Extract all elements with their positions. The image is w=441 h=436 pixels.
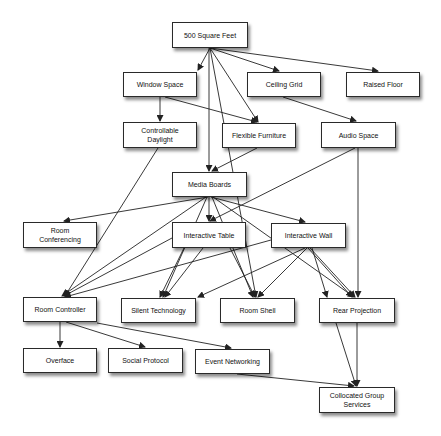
edge-sqft-to-raised <box>210 48 378 71</box>
node-silent: Silent Technology <box>121 298 196 323</box>
edge-table-to-silent <box>165 248 203 297</box>
edge-controller-to-social <box>66 322 145 347</box>
node-label: Flexible Furniture <box>232 131 286 140</box>
node-collocated: Collocated GroupServices <box>319 387 395 413</box>
node-label: Ceiling Grid <box>266 80 303 89</box>
node-label: Audio Space <box>339 131 379 140</box>
node-shell: Room Shell <box>220 298 295 323</box>
node-label: Silent Technology <box>131 306 186 315</box>
edge-sqft-to-ceiling <box>210 48 279 71</box>
node-media: Media Boards <box>172 172 247 197</box>
node-label: Social Protocol <box>122 356 169 365</box>
node-audio: Audio Space <box>321 122 396 148</box>
node-label: Interactive Wall <box>285 231 333 240</box>
edge-media-to-conferencing <box>64 197 208 221</box>
edge-wall-to-shell <box>258 248 307 297</box>
node-label: Raised Floor <box>363 80 403 89</box>
node-label: RoomConferencing <box>39 226 81 244</box>
node-rear: Rear Projection <box>319 298 395 323</box>
edge-furniture-to-media <box>212 148 257 171</box>
node-conferencing: RoomConferencing <box>23 222 97 248</box>
edge-media-to-wall <box>211 197 305 222</box>
node-social: Social Protocol <box>108 348 183 373</box>
edge-rear-to-collocated <box>336 323 356 386</box>
node-ceiling: Ceiling Grid <box>247 72 321 97</box>
node-sqft: 500 Square Feet <box>172 22 248 48</box>
edge-window-to-furniture <box>165 97 257 122</box>
edge-wall-to-rear <box>310 248 355 297</box>
node-controller: Room Controller <box>23 297 97 322</box>
edge-table-to-silent <box>160 248 184 297</box>
node-wall: Interactive Wall <box>271 223 346 248</box>
node-label: ControllableDaylight <box>141 126 178 144</box>
edge-controller-to-event <box>97 323 231 348</box>
node-table: Interactive Table <box>172 222 246 248</box>
dependency-diagram: 500 Square FeetWindow SpaceCeiling GridR… <box>0 0 441 436</box>
node-label: Room Shell <box>239 306 275 315</box>
edge-event-to-collocated <box>237 374 354 386</box>
node-event: Event Networking <box>195 349 270 374</box>
node-daylight: ControllableDaylight <box>123 122 197 148</box>
node-label: Event Networking <box>205 357 260 366</box>
node-furniture: Flexible Furniture <box>222 123 296 148</box>
node-label: Interactive Table <box>184 231 235 240</box>
node-label: Window Space <box>137 80 184 89</box>
node-label: Room Controller <box>35 305 86 314</box>
edge-wall-to-collocated <box>312 248 327 297</box>
node-window: Window Space <box>123 72 197 97</box>
node-label: Overface <box>46 356 74 365</box>
node-label: 500 Square Feet <box>184 31 236 40</box>
node-overface: Overface <box>23 348 97 373</box>
edge-sqft-to-window <box>198 48 210 70</box>
node-raised: Raised Floor <box>346 72 420 97</box>
node-label: Rear Projection <box>333 306 381 315</box>
node-label: Media Boards <box>188 180 231 189</box>
edge-ceiling-to-audio <box>283 97 356 121</box>
node-label: Collocated GroupServices <box>330 391 384 409</box>
